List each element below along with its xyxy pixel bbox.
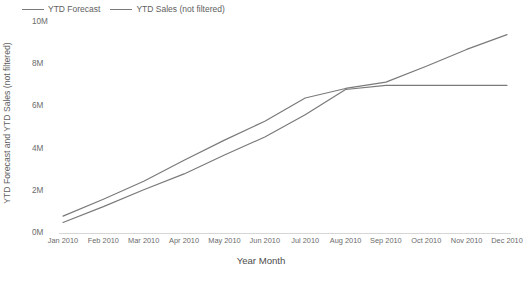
x-axis-tick-label: May 2010 [208,236,240,245]
plot-area [59,22,511,233]
y-axis-title-text: YTD Forecast and YTD Sales (not filtered… [2,42,12,203]
x-axis-tick-label: Jun 2010 [250,236,280,245]
x-axis-tick-label: Apr 2010 [169,236,199,245]
y-axis-title: YTD Forecast and YTD Sales (not filtered… [0,0,14,246]
y-axis-tick-label: 10M [32,18,58,26]
y-axis-tick-label: 6M [32,102,58,110]
series-canvas [59,22,511,233]
x-axis-line [59,233,511,234]
legend-item-label: YTD Sales (not filtered) [136,4,224,14]
x-axis-tick-label: Sep 2010 [370,236,402,245]
x-axis-tick-label: Oct 2010 [411,236,441,245]
legend-item-ytd-sales[interactable]: YTD Sales (not filtered) [110,4,224,14]
y-axis-tick-label: 4M [32,145,58,153]
x-axis-tick-label: Aug 2010 [330,236,362,245]
x-axis-tick-label: Dec 2010 [491,236,523,245]
x-axis-tick-labels: Jan 2010Feb 2010Mar 2010Apr 2010May 2010… [59,236,511,248]
series-line-ytd-sales [63,85,507,222]
x-axis-tick-label: Mar 2010 [128,236,159,245]
x-axis-tick-label: Jan 2010 [48,236,78,245]
x-axis-tick-label: Nov 2010 [451,236,483,245]
line-swatch-icon [110,9,132,10]
y-axis-tick-label: 2M [32,187,58,195]
x-axis-title: Year Month [0,255,522,266]
y-axis-tick-label: 8M [32,60,58,68]
x-axis-tick-label: Feb 2010 [88,236,119,245]
x-axis-tick-label: Jul 2010 [291,236,319,245]
